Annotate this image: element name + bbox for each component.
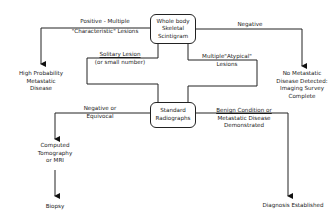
edge-label-benign: Benign Condition or Metastatic Disease D… (208, 107, 280, 130)
node-biopsy: Biopsy (35, 203, 75, 211)
node-standard-radiographs: Standard Radiographs (150, 102, 196, 128)
node-no-metastatic: No Metastatic Disease Detected: Imaging … (266, 70, 336, 100)
node-whole-body-scintigram: Whole body Skeletal Scintigram (150, 14, 196, 44)
node-diagnosis-established: Diagnosis Established (250, 202, 336, 210)
edge-label-negative-equivocal: Negative or Equivocal (70, 105, 130, 120)
node-ct-mri: Computed Tomography or MRI (25, 142, 85, 165)
edge-label-positive: Positive - Multiple "Characteristic" Les… (60, 18, 150, 35)
node-high-probability: High Probability Metastatic Disease (5, 70, 77, 93)
edge-label-atypical: Multiple"Atypical" Lesions (194, 53, 260, 68)
edge-label-negative: Negative (220, 21, 280, 29)
edge-label-solitary: Solitary Lesion (or small number) (88, 51, 152, 66)
